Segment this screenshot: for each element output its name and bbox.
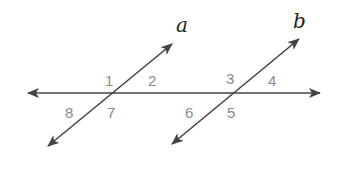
angle-1-label: 1 xyxy=(105,72,113,89)
line-a xyxy=(48,44,172,146)
angle-7-label: 7 xyxy=(107,104,115,121)
line-a-label: a xyxy=(176,13,188,37)
line-b-label: b xyxy=(293,9,306,33)
line-b xyxy=(172,39,299,144)
diagram: a b 1 2 3 4 5 6 7 8 xyxy=(0,0,344,171)
angle-6-label: 6 xyxy=(185,104,193,121)
angle-4-label: 4 xyxy=(268,72,276,89)
angle-3-label: 3 xyxy=(226,70,234,87)
angle-5-label: 5 xyxy=(227,104,235,121)
diagram-canvas: a b 1 2 3 4 5 6 7 8 xyxy=(0,0,344,171)
angle-2-label: 2 xyxy=(148,72,156,89)
angle-8-label: 8 xyxy=(65,104,73,121)
